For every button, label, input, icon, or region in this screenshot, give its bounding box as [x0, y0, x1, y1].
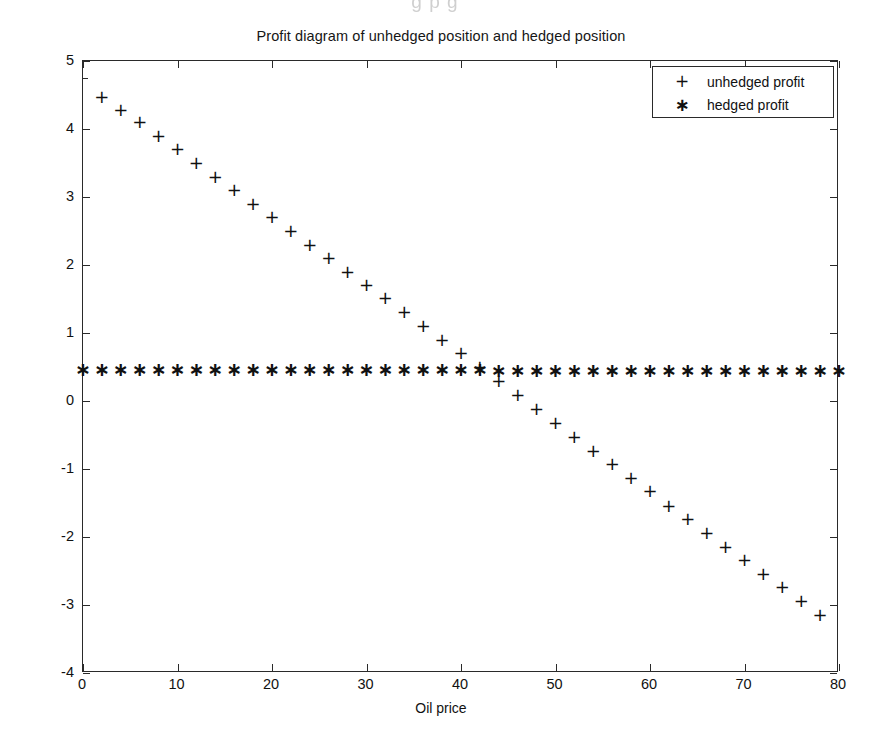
data-point-plus: + [510, 386, 525, 404]
data-point-plus: + [227, 181, 242, 199]
data-point-star: ∗ [283, 360, 299, 379]
data-point-plus: + [151, 127, 166, 145]
profit-diagram-figure: g p g Profit diagram of unhedged positio… [0, 0, 882, 749]
y-tick [83, 333, 90, 334]
y-tick [83, 673, 90, 674]
data-point-plus: + [170, 140, 185, 158]
data-point-star: ∗ [321, 360, 337, 379]
y-tick-right [830, 129, 837, 130]
y-tick-label: -3 [61, 596, 74, 612]
x-tick-top [650, 61, 651, 68]
y-tick [83, 265, 90, 266]
data-point-plus: + [435, 331, 450, 349]
data-point-plus: + [283, 222, 298, 240]
y-tick-right [830, 673, 837, 674]
legend-label: hedged profit [697, 97, 789, 113]
plot-area: +++++++++++++++++++++++++++++++++++++++∗… [82, 60, 838, 672]
y-tick-label: 2 [66, 256, 74, 272]
legend-item: +unhedged profit [653, 70, 833, 93]
plus-marker: + [667, 73, 697, 90]
data-point-star: ∗ [831, 361, 847, 380]
y-tick-right [830, 333, 837, 334]
x-tick-label: 80 [830, 676, 846, 692]
asterisk-marker: ∗ [667, 96, 697, 114]
data-point-star: ∗ [453, 360, 469, 379]
data-point-plus: + [472, 358, 487, 376]
chart-legend: +unhedged profit∗hedged profit [652, 66, 834, 118]
data-point-star: ∗ [377, 360, 393, 379]
y-tick-right [830, 469, 837, 470]
data-point-plus: + [453, 344, 468, 362]
y-tick [83, 61, 90, 62]
y-tick-label: -1 [61, 460, 74, 476]
data-point-star: ∗ [529, 360, 545, 379]
data-point-star: ∗ [264, 360, 280, 379]
data-point-star: ∗ [623, 360, 639, 379]
chart-title: Profit diagram of unhedged position and … [0, 28, 882, 44]
data-point-plus: + [321, 249, 336, 267]
data-point-star: ∗ [793, 361, 809, 380]
data-point-star: ∗ [491, 360, 507, 379]
data-point-star: ∗ [302, 360, 318, 379]
data-point-star: ∗ [699, 361, 715, 380]
x-tick-label: 60 [641, 676, 657, 692]
x-tick [83, 664, 84, 671]
data-point-star: ∗ [226, 360, 242, 379]
data-point-plus: + [529, 400, 544, 418]
x-tick [745, 664, 746, 671]
data-point-star: ∗ [132, 360, 148, 379]
data-point-star: ∗ [359, 360, 375, 379]
x-tick-label: 0 [78, 676, 86, 692]
data-point-star: ∗ [812, 361, 828, 380]
data-point-plus: + [586, 442, 601, 460]
y-tick-label: 5 [66, 52, 74, 68]
data-point-plus: + [416, 317, 431, 335]
data-point-star: ∗ [510, 360, 526, 379]
legend-item: ∗hedged profit [653, 93, 833, 116]
data-point-plus: + [794, 592, 809, 610]
y-tick-right [830, 401, 837, 402]
y-tick-label: 0 [66, 392, 74, 408]
x-tick [367, 664, 368, 671]
data-point-star: ∗ [340, 360, 356, 379]
y-minor-tick [83, 78, 88, 79]
data-point-star: ∗ [170, 360, 186, 379]
data-point-plus: + [699, 524, 714, 542]
y-tick [83, 129, 90, 130]
data-point-star: ∗ [718, 361, 734, 380]
y-tick [83, 605, 90, 606]
data-point-plus: + [680, 510, 695, 528]
x-tick [556, 664, 557, 671]
x-tick [650, 664, 651, 671]
x-tick-label: 30 [357, 676, 373, 692]
data-point-star: ∗ [774, 361, 790, 380]
data-point-plus: + [264, 208, 279, 226]
x-tick [272, 664, 273, 671]
data-point-star: ∗ [737, 361, 753, 380]
data-point-star: ∗ [207, 360, 223, 379]
data-point-plus: + [737, 551, 752, 569]
y-tick-label: -4 [61, 664, 74, 680]
data-point-plus: + [302, 236, 317, 254]
x-tick [461, 664, 462, 671]
data-point-plus: + [94, 88, 109, 106]
x-tick [178, 664, 179, 671]
data-point-star: ∗ [566, 360, 582, 379]
data-point-plus: + [548, 414, 563, 432]
data-point-star: ∗ [548, 360, 564, 379]
y-tick-label: 1 [66, 324, 74, 340]
data-point-star: ∗ [604, 360, 620, 379]
y-tick [83, 401, 90, 402]
data-point-star: ∗ [585, 360, 601, 379]
data-point-plus: + [113, 101, 128, 119]
x-tick-label: 70 [735, 676, 751, 692]
x-tick-label: 50 [546, 676, 562, 692]
scan-artifact: g p g [255, 0, 615, 13]
x-tick-label: 40 [452, 676, 468, 692]
data-point-plus: + [718, 538, 733, 556]
data-point-plus: + [661, 497, 676, 515]
data-point-plus: + [359, 276, 374, 294]
data-point-star: ∗ [680, 360, 696, 379]
y-tick-right [830, 61, 837, 62]
data-point-plus: + [775, 578, 790, 596]
